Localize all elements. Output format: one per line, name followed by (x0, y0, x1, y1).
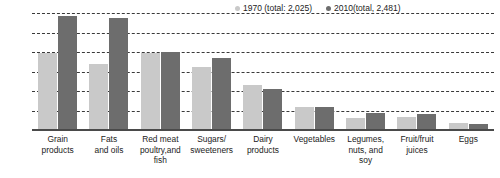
bar-group (443, 14, 494, 131)
bar-group (135, 14, 186, 131)
x-axis-label-line: Dairy (238, 134, 287, 145)
bar (58, 16, 77, 131)
x-axis-label-line: Grain (33, 134, 82, 145)
x-axis-label-line: Fruit/fruit (392, 134, 441, 145)
x-axis-label-line: Fats (84, 134, 133, 145)
x-axis-label-line: Sugars/ (187, 134, 236, 145)
bar-group (32, 14, 83, 131)
bar (38, 53, 57, 131)
bar (89, 64, 108, 131)
bar (315, 107, 334, 131)
legend-item-1970: 1970 (total: 2,025) (235, 3, 312, 13)
bar (366, 113, 385, 131)
x-axis-label-line: Red meat (136, 134, 185, 145)
x-axis-label-line: poultry,and fish (136, 145, 185, 166)
x-axis-label-line: products (33, 145, 82, 156)
legend-swatch-1970 (235, 6, 240, 11)
bar (109, 18, 128, 131)
bar (243, 85, 262, 131)
x-axis-label: Sugars/sweeteners (186, 134, 237, 166)
legend-swatch-2010 (326, 6, 331, 11)
x-axis-label-line: products (238, 145, 287, 156)
x-axis-label: Fruit/fruitjuices (391, 134, 442, 166)
x-axis-label-line: Eggs (444, 134, 493, 145)
x-axis-label: Legumes,nuts, and soy (340, 134, 391, 166)
x-axis-label: Fatsand oils (83, 134, 134, 166)
bar (192, 67, 211, 131)
x-axis-label-line: and oils (84, 145, 133, 156)
x-axis-labels: GrainproductsFatsand oilsRed meatpoultry… (32, 134, 494, 166)
bar-group (340, 14, 391, 131)
bar-group (237, 14, 288, 131)
legend-label-1970: 1970 (total: 2,025) (243, 3, 312, 13)
bar-group (289, 14, 340, 131)
x-axis-label: Vegetables (289, 134, 340, 166)
legend-label-2010: 2010(total, 2,481) (334, 3, 401, 13)
x-axis-label: Grainproducts (32, 134, 83, 166)
x-axis-line (32, 129, 494, 131)
bar (212, 58, 231, 131)
chart-legend: 1970 (total: 2,025) 2010(total, 2,481) (232, 3, 404, 13)
bar-groups (32, 14, 494, 131)
plot-area: 100200300400500600 (32, 14, 494, 131)
x-axis-label-line: Legumes, (341, 134, 390, 145)
bar (161, 52, 180, 131)
x-axis-label-line: juices (392, 145, 441, 156)
x-axis-label-line: nuts, and soy (341, 145, 390, 166)
x-axis-label-line: Vegetables (290, 134, 339, 145)
grouped-bar-chart: 1970 (total: 2,025) 2010(total, 2,481) 1… (0, 0, 500, 178)
x-axis-label: Red meatpoultry,and fish (135, 134, 186, 166)
bar (295, 107, 314, 131)
bar (263, 89, 282, 131)
bar-group (186, 14, 237, 131)
x-axis-label-line: sweeteners (187, 145, 236, 156)
bar (141, 53, 160, 131)
bar-group (391, 14, 442, 131)
bar-group (83, 14, 134, 131)
x-axis-label: Eggs (443, 134, 494, 166)
x-axis-label: Dairyproducts (237, 134, 288, 166)
legend-item-2010: 2010(total, 2,481) (326, 3, 401, 13)
